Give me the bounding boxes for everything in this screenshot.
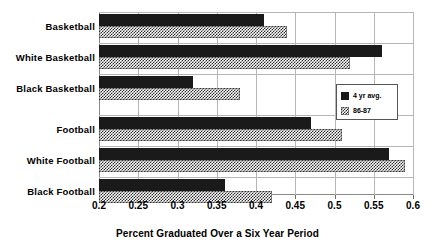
category-separator xyxy=(99,43,413,44)
bar xyxy=(99,129,342,141)
bar xyxy=(99,14,264,26)
legend-label-1: 86-87 xyxy=(353,107,371,114)
legend-label-0: 4 yr avg. xyxy=(353,92,381,99)
legend-item-1: 86-87 xyxy=(341,104,394,117)
chart-legend: 4 yr avg. 86-87 xyxy=(336,84,398,120)
x-tick-label: 0.4 xyxy=(249,200,263,211)
y-axis-label: Basketball xyxy=(0,22,95,32)
legend-item-0: 4 yr avg. xyxy=(341,89,394,102)
bar xyxy=(99,76,193,88)
x-axis-title: Percent Graduated Over a Six Year Period xyxy=(0,228,435,239)
y-axis-label: Football xyxy=(0,125,95,135)
y-axis-label: White Football xyxy=(0,156,95,166)
tick-mark xyxy=(413,195,414,199)
x-tick-label: 0.6 xyxy=(406,200,420,211)
category-separator xyxy=(99,177,413,178)
y-axis-label: White Basketball xyxy=(0,53,95,63)
category-separator xyxy=(99,74,413,75)
bar xyxy=(99,45,382,57)
tick-mark xyxy=(335,195,336,199)
x-tick-label: 0.3 xyxy=(171,200,185,211)
tick-mark xyxy=(295,195,296,199)
y-axis-label: Black Basketball xyxy=(0,84,95,94)
bar xyxy=(99,179,225,191)
x-tick-label: 0.45 xyxy=(286,200,305,211)
gridline xyxy=(413,12,414,195)
y-axis-labels: BasketballWhite BasketballBlack Basketba… xyxy=(0,0,95,249)
x-tick-label: 0.55 xyxy=(364,200,383,211)
bar xyxy=(99,57,350,69)
legend-swatch-hatch-icon xyxy=(341,107,349,115)
category-separator xyxy=(99,12,413,13)
bar xyxy=(99,191,272,203)
tick-mark xyxy=(374,195,375,199)
bar xyxy=(99,148,389,160)
x-tick-label: 0.5 xyxy=(328,200,342,211)
bar xyxy=(99,88,240,100)
x-tick-label: 0.35 xyxy=(207,200,226,211)
category-separator xyxy=(99,146,413,147)
x-tick-label: 0.2 xyxy=(92,200,106,211)
y-axis-label: Black Football xyxy=(0,187,95,197)
bar xyxy=(99,26,287,38)
bar-chart: BasketballWhite BasketballBlack Basketba… xyxy=(0,0,435,249)
bar xyxy=(99,117,311,129)
bar xyxy=(99,160,405,172)
legend-swatch-solid-icon xyxy=(341,92,349,100)
x-tick-label: 0.25 xyxy=(129,200,148,211)
